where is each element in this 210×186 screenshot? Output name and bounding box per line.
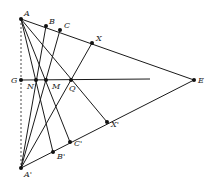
label-q: Q: [69, 84, 76, 93]
line-g: [21, 79, 150, 80]
label-b: B: [48, 17, 55, 26]
point-x-prime: [105, 120, 109, 124]
label-m: M: [51, 82, 61, 91]
label-c: C: [64, 21, 70, 30]
label-c-prime: C': [74, 139, 82, 148]
point-a-prime: [19, 166, 23, 170]
point-x: [90, 41, 94, 45]
label-g: G: [11, 76, 18, 85]
geometry-diagram: A B C X E G N M Q A' B' C' X': [0, 0, 210, 186]
label-x-prime: X': [110, 120, 119, 129]
label-b-prime: B': [56, 152, 65, 161]
label-a-prime: A': [23, 170, 32, 179]
point-e: [192, 78, 196, 82]
label-x: X: [95, 34, 102, 43]
segment-a-prime-e: [21, 80, 194, 168]
segment-a-prime-c: [21, 30, 60, 168]
point-b: [44, 24, 48, 28]
point-b-prime: [51, 150, 55, 154]
point-g: [19, 78, 23, 82]
label-a: A: [23, 9, 30, 18]
point-c: [58, 28, 62, 32]
segment-a-b-prime: [21, 19, 53, 152]
label-e: E: [197, 76, 204, 85]
point-q: [69, 78, 73, 82]
point-n: [34, 78, 38, 82]
label-n: N: [26, 82, 35, 91]
point-a: [19, 17, 23, 21]
point-c-prime: [68, 140, 72, 144]
point-m: [44, 78, 48, 82]
